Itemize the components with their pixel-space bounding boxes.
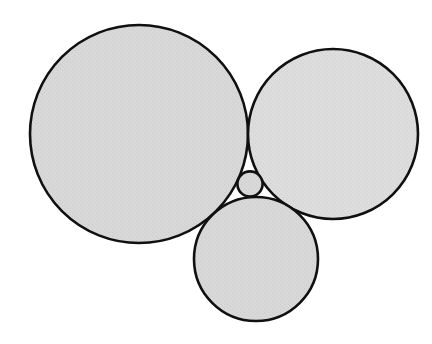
inner-soddy-circle bbox=[237, 171, 262, 196]
tangent-circles-diagram bbox=[0, 0, 432, 344]
bottom-circle bbox=[194, 197, 318, 321]
upper-right-circle bbox=[248, 49, 418, 219]
large-left-circle bbox=[30, 25, 248, 243]
figure-root bbox=[0, 0, 432, 344]
